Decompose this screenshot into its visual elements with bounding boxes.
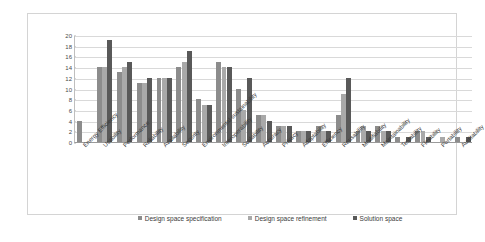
y-axis-tick-label: 8 (69, 97, 72, 103)
legend-swatch (248, 216, 252, 220)
plot-area (74, 36, 472, 143)
chart-frame: 20181614121086420 Energy EfficiencyUsabi… (27, 13, 457, 215)
legend-item: Design space refinement (248, 215, 327, 222)
bar (341, 94, 346, 142)
bar (187, 51, 192, 142)
bar (227, 67, 232, 142)
x-axis-labels: Energy EfficiencyUsabilityPerformanceRel… (74, 144, 472, 214)
bar (395, 137, 400, 142)
bar-group (75, 36, 95, 142)
bar-group (334, 36, 354, 142)
legend-label: Design space specification (145, 215, 222, 222)
bar (147, 78, 152, 142)
legend-label: Design space refinement (255, 215, 327, 222)
chart-legend: Design space specificationDesign space r… (55, 210, 485, 226)
bar-group (194, 36, 214, 142)
y-axis-tick-label: 18 (65, 44, 72, 50)
bar (127, 62, 132, 142)
bar (202, 105, 207, 142)
y-axis-tick-label: 6 (69, 108, 72, 114)
legend-item: Design space specification (138, 215, 222, 222)
bar (122, 67, 127, 142)
bar (167, 78, 172, 142)
bar (346, 78, 351, 142)
legend-swatch (353, 216, 357, 220)
y-axis-tick-label: 12 (65, 76, 72, 82)
y-axis-tick-label: 4 (69, 119, 72, 125)
y-axis-tick-label: 10 (65, 87, 72, 93)
y-axis-tick-label: 0 (69, 140, 72, 146)
y-axis-tick-label: 2 (69, 129, 72, 135)
legend-label: Solution space (360, 215, 403, 222)
y-axis-tick-label: 20 (65, 33, 72, 39)
bars-layer (75, 36, 472, 142)
y-axis-tick-label: 16 (65, 54, 72, 60)
bar (142, 83, 147, 142)
legend-swatch (138, 216, 142, 220)
y-axis: 20181614121086420 (55, 36, 73, 143)
bar-group (115, 36, 135, 142)
bar (455, 137, 460, 142)
bar-group (294, 36, 314, 142)
legend-item: Solution space (353, 215, 403, 222)
y-axis-tick-label: 14 (65, 65, 72, 71)
bar (77, 121, 82, 142)
bar-group (155, 36, 175, 142)
